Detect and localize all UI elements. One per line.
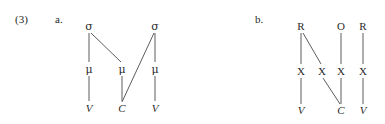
node-bv1: V [298,105,305,116]
association-line-s2-c1 [122,33,154,102]
node-m1: μ [85,64,92,75]
association-line-r1-x2 [303,33,321,64]
node-x3: X [337,66,345,77]
node-r1: R [297,21,304,32]
node-x1: X [297,66,305,77]
node-r2: R [359,21,366,32]
example-number: (3) [15,14,28,25]
node-bc1: C [337,105,344,116]
node-m3: μ [151,64,158,75]
node-c1: C [118,103,125,114]
node-x2: X [318,66,326,77]
node-bv2: V [360,105,367,116]
node-v2: V [152,103,159,114]
association-line-s1-m2 [91,33,121,62]
association-lines-diagram-b [301,33,363,104]
node-s2: σ [151,21,159,32]
subfigure-label-b: b. [255,14,263,25]
node-x4: X [359,66,367,77]
node-v1: V [86,103,93,114]
figure-container: (3) a. b. σσμμμVCV RORXXXXVCV [0,0,385,124]
association-line-x2-bc1 [323,78,340,104]
node-s1: σ [85,21,93,32]
node-m2: μ [118,64,125,75]
subfigure-label-a: a. [55,14,63,25]
node-o1: O [337,21,345,32]
